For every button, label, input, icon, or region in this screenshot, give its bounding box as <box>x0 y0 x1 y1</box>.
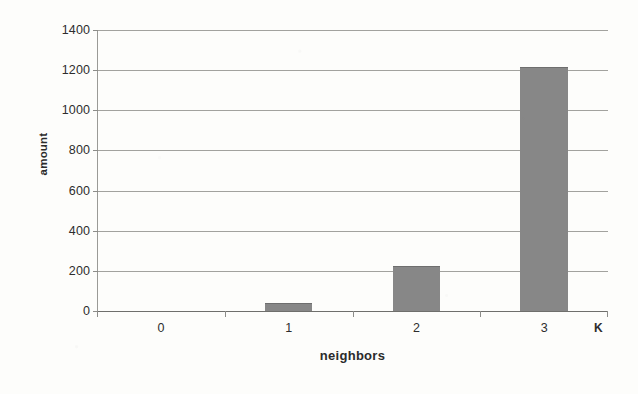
y-axis-tickmark <box>93 150 98 151</box>
y-axis-tick-label: 800 <box>34 143 90 157</box>
bar <box>265 303 312 311</box>
x-axis-tick-label: 2 <box>396 321 436 335</box>
y-axis-tick-label: 1000 <box>34 103 90 117</box>
x-axis-title: neighbors <box>97 348 608 363</box>
bar <box>520 67 567 311</box>
bar <box>393 266 440 311</box>
y-axis-tick-label: 1400 <box>34 23 90 37</box>
x-axis-tickmark <box>353 311 354 317</box>
y-axis-tickmark <box>93 191 98 192</box>
y-axis-tick-label: 400 <box>34 224 90 238</box>
y-axis-tick-labels: 0200400600800100012001400 <box>34 0 90 394</box>
x-axis-tick-labels: 0123 <box>97 311 608 351</box>
y-axis-tickmark <box>93 110 98 111</box>
y-axis-tickmark <box>93 271 98 272</box>
x-axis-tick-label: 0 <box>141 321 181 335</box>
x-axis-tick-label: 1 <box>269 321 309 335</box>
x-axis-tickmark <box>225 311 226 317</box>
x-axis-tickmark <box>607 311 608 317</box>
y-axis-tickmark <box>93 70 98 71</box>
y-axis-tick-label: 0 <box>34 304 90 318</box>
y-axis-tick-label: 600 <box>34 184 90 198</box>
y-axis-spine <box>97 30 98 311</box>
x-axis-tick-label: 3 <box>524 321 564 335</box>
y-axis-tickmark <box>93 231 98 232</box>
y-axis-tick-label: 200 <box>34 264 90 278</box>
x-axis-tickmark <box>97 311 98 317</box>
gridline <box>97 30 608 31</box>
y-axis-tickmark <box>93 30 98 31</box>
y-axis-tick-label: 1200 <box>34 63 90 77</box>
bar-chart: amount 0200400600800100012001400 0123 K … <box>0 0 638 394</box>
x-axis-end-marker: K <box>594 321 603 335</box>
plot-area <box>97 30 608 311</box>
x-axis-tickmark <box>480 311 481 317</box>
